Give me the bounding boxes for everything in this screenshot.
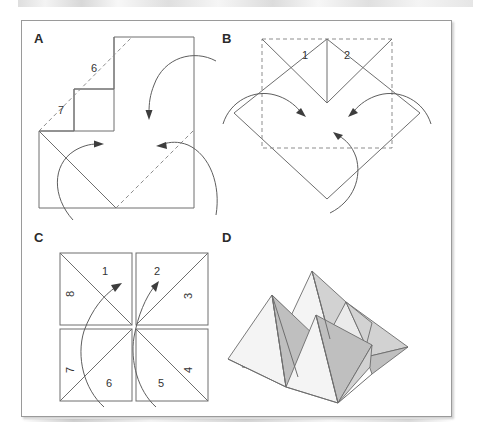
panel-d-folded-model [228,271,408,403]
panel-c-label-1: 1 [102,265,108,277]
panel-b-label-2: 2 [344,49,350,61]
panel-c-arrow-left-path [81,287,116,407]
panel-c-diagonal-bottom-left [60,329,132,401]
panel-c-label-8: 8 [64,291,76,297]
panel-b-arrow-bottom-head [333,132,343,140]
panel-a-dashed-diagonal-lower [116,130,194,208]
panel-a-label-6: 6 [91,62,97,74]
panel-c-label-5: 5 [158,377,164,389]
panel-b-label-1: 1 [302,49,308,61]
panel-a-arrow-top-head [146,110,153,120]
scan-artifact-top [18,0,473,7]
panel-c-label-3: 3 [182,293,194,299]
panel-b-notch-right [327,39,392,103]
panel-a-fold-left [39,131,116,208]
panel-c-diagonal-bottom-right [136,329,208,401]
panel-c-label-4: 4 [182,367,194,373]
panel-a-dashed-diagonal-upper [39,37,132,131]
panel-c-diagram: 1 8 2 3 7 6 5 4 [26,227,206,407]
panel-d-diagram [220,227,440,417]
panel-b-arrow-right-head [348,108,358,117]
figure-root: A B C D 6 7 [0,0,479,443]
panel-b-notch-left [262,39,327,103]
panel-c-label-7: 7 [64,367,76,373]
panel-c-label-6: 6 [106,377,112,389]
figure-frame: A B C D 6 7 [21,20,452,417]
scan-artifact-bottom [22,419,452,422]
panel-b-diagram: 1 2 [220,25,435,220]
panel-c-diagonal-top-right [136,253,208,325]
panel-c-diagonal-top-left [60,253,132,325]
panel-c-arrow-left-head [111,283,122,292]
panel-a-arrow-bottom-head [94,141,104,148]
panel-c-label-2: 2 [154,265,160,277]
panel-b-arrow-left-head [296,108,306,117]
panel-a-label-7: 7 [58,104,64,116]
panel-c-arrow-right-head [151,281,159,292]
panel-a-arrow-right-head [156,142,167,149]
panel-a-diagram: 6 7 [26,25,226,220]
panel-a-arrow-top-path [149,56,216,113]
